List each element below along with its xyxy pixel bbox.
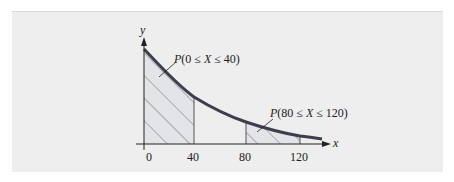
- exponential-density-diagram: y x 0 40 80 120 P(0 ≤ X ≤ 40) P(80 ≤ X ≤…: [0, 0, 454, 182]
- x-axis-arrow-icon: [322, 141, 331, 147]
- y-axis-arrow-icon: [141, 37, 147, 46]
- annotation-p-0-40: P(0 ≤ X ≤ 40): [173, 52, 240, 66]
- y-axis-label: y: [139, 23, 146, 37]
- annotation-p-80-120: P(80 ≤ X ≤ 120): [269, 106, 348, 120]
- tick-label-40: 40: [187, 150, 199, 164]
- tick-label-0: 0: [146, 150, 152, 164]
- tick-label-80: 80: [239, 150, 251, 164]
- tick-label-120: 120: [290, 150, 308, 164]
- x-axis-label: x: [332, 136, 339, 150]
